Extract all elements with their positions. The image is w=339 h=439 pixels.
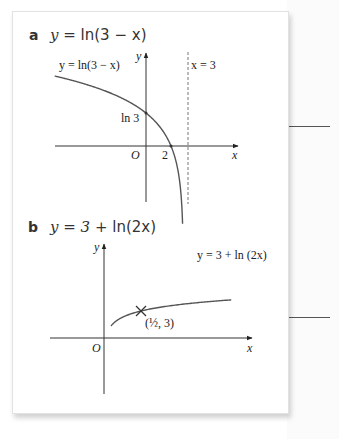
graph-b-curve-label: y = 3 + ln (2x) — [197, 248, 267, 262]
graph-a-y-intercept-label: ln 3 — [121, 111, 139, 125]
graph-b-point-label: (½, 3) — [145, 316, 174, 330]
graph-b-x-axis-label: x — [246, 341, 253, 355]
graph-a-curve-label: y = ln(3 − x) — [59, 58, 120, 72]
graph-b-y-axis-label: y — [93, 240, 100, 254]
graph-b: (½, 3) y = 3 + ln (2x) y x O — [50, 240, 267, 394]
graph-a-y-intercept-point — [145, 112, 148, 115]
graph-b-origin-label: O — [92, 341, 101, 355]
graph-a-x-intercept-point — [170, 145, 173, 148]
graph-a: y = ln(3 − x) y x O ln 3 2 x = 3 — [55, 49, 238, 224]
graph-a-asymptote-label: x = 3 — [191, 58, 216, 72]
graph-a-origin-label: O — [131, 148, 140, 162]
graphs-svg: y = ln(3 − x) y x O ln 3 2 x = 3 (½, 3) … — [0, 0, 339, 439]
graph-a-x-axis-label: x — [231, 148, 238, 162]
graph-a-y-axis-label: y — [135, 49, 142, 63]
graph-b-point-marker — [136, 306, 146, 316]
graph-a-x-intercept-label: 2 — [162, 148, 168, 162]
